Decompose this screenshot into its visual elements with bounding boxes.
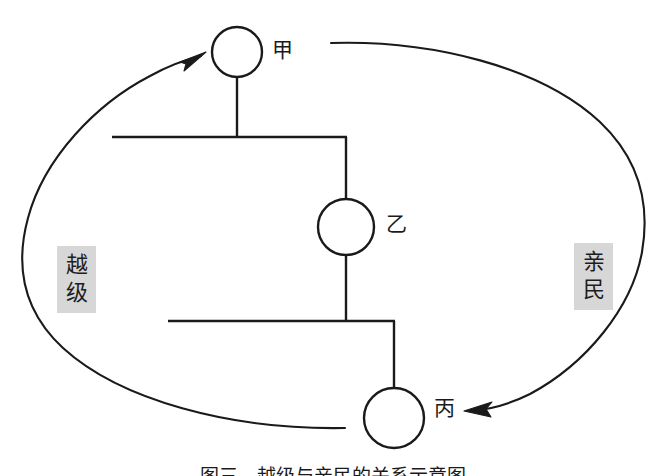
- loop-arc-right: [331, 43, 645, 411]
- annotation-box-yueji: 越 级: [57, 246, 96, 313]
- node-label-jia: 甲: [272, 40, 293, 61]
- figure-caption: 图三 越级与亲民的关系示意图: [0, 466, 666, 476]
- node-label-bing: 丙: [434, 398, 455, 419]
- node-circle-jia[interactable]: [212, 27, 262, 77]
- node-circle-bing[interactable]: [364, 388, 424, 448]
- node-label-yi: 乙: [386, 214, 407, 235]
- loop-arc-left: [22, 56, 345, 428]
- annotation-yueji-char-1: 越: [64, 251, 89, 279]
- annotation-qinmin-char-1: 亲: [581, 248, 606, 276]
- annotation-qinmin-char-2: 民: [581, 276, 606, 304]
- arrowhead-to-jia-icon: [180, 52, 206, 71]
- node-circle-yi[interactable]: [318, 199, 374, 255]
- annotation-yueji-char-2: 级: [64, 279, 89, 307]
- diagram-canvas: 甲 乙 丙 越 级 亲 民 图三 越级与亲民的关系示意图: [0, 0, 666, 476]
- diagram-graphics: [0, 0, 666, 476]
- annotation-box-qinmin: 亲 民: [574, 243, 613, 310]
